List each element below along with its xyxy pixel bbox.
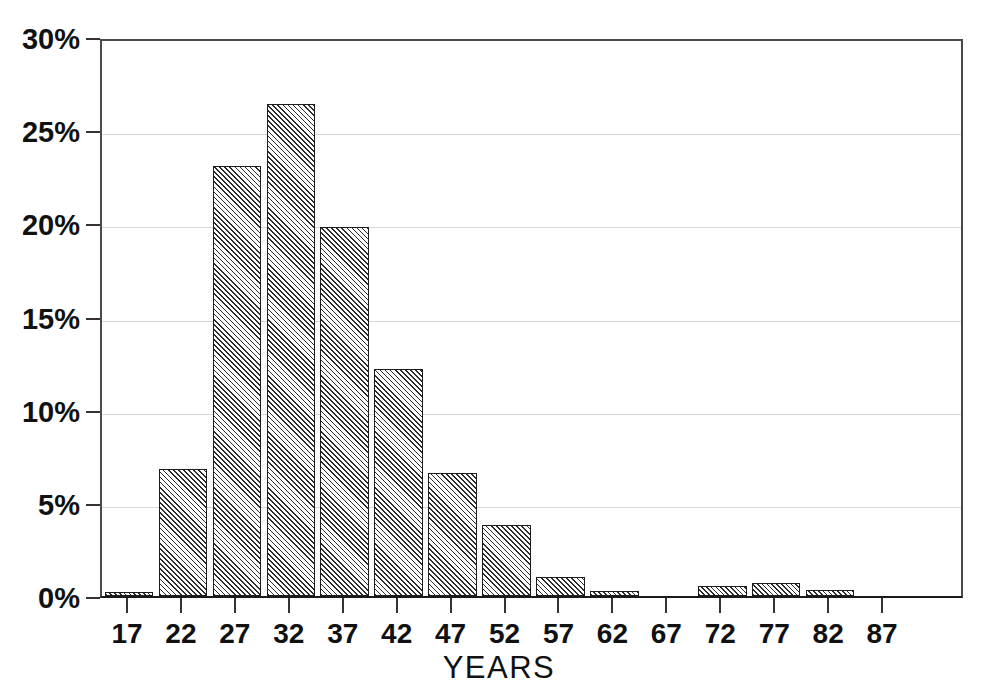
- x-tick-mark-62: [611, 598, 613, 613]
- x-tick-label: 67: [636, 618, 696, 650]
- x-tick-mark-37: [342, 598, 344, 613]
- y-tick-mark-20%: [86, 224, 100, 226]
- x-tick-label: 37: [313, 618, 373, 650]
- y-tick-label: 20%: [2, 209, 80, 242]
- bar-17: [105, 592, 154, 596]
- x-tick-label: 77: [744, 618, 804, 650]
- x-tick-label: 27: [205, 618, 265, 650]
- bar-22: [159, 469, 208, 596]
- y-tick-mark-0%: [86, 597, 100, 599]
- x-tick-mark-17: [126, 598, 128, 613]
- x-tick-label: 52: [475, 618, 535, 650]
- bar-77: [752, 583, 801, 596]
- bar-82: [806, 590, 855, 596]
- x-tick-label: 72: [690, 618, 750, 650]
- y-tick-label: 15%: [2, 303, 80, 336]
- y-tick-mark-30%: [86, 38, 100, 40]
- x-tick-mark-82: [827, 598, 829, 613]
- x-tick-mark-67: [665, 598, 667, 613]
- x-tick-mark-52: [504, 598, 506, 613]
- x-tick-label: 17: [97, 618, 157, 650]
- bar-57: [536, 577, 585, 596]
- bar-62: [590, 591, 639, 596]
- y-tick-mark-5%: [86, 504, 100, 506]
- x-tick-mark-47: [450, 598, 452, 613]
- bar-37: [320, 227, 369, 596]
- x-tick-mark-87: [881, 598, 883, 613]
- x-tick-label: 57: [528, 618, 588, 650]
- bar-52: [482, 525, 531, 596]
- x-tick-label: 42: [367, 618, 427, 650]
- y-tick-label: 10%: [2, 396, 80, 429]
- histogram-figure: 0%5%10%15%20%25%30% 17222732374247525762…: [0, 0, 998, 694]
- plot-area: [100, 39, 963, 598]
- bar-72: [698, 586, 747, 596]
- x-tick-label: 82: [798, 618, 858, 650]
- bar-27: [213, 166, 262, 596]
- x-tick-mark-27: [234, 598, 236, 613]
- x-tick-label: 87: [852, 618, 912, 650]
- x-tick-mark-57: [557, 598, 559, 613]
- y-tick-label: 25%: [2, 116, 80, 149]
- x-tick-mark-22: [180, 598, 182, 613]
- y-tick-mark-25%: [86, 131, 100, 133]
- bar-42: [374, 369, 423, 596]
- y-tick-label: 30%: [2, 23, 80, 56]
- x-tick-label: 32: [259, 618, 319, 650]
- x-tick-label: 62: [582, 618, 642, 650]
- x-tick-mark-77: [773, 598, 775, 613]
- x-tick-label: 22: [151, 618, 211, 650]
- y-tick-mark-10%: [86, 411, 100, 413]
- x-tick-mark-32: [288, 598, 290, 613]
- y-tick-mark-15%: [86, 318, 100, 320]
- gridline-25%: [102, 134, 961, 135]
- x-tick-mark-72: [719, 598, 721, 613]
- x-axis-title: YEARS: [0, 650, 998, 686]
- y-tick-label: 5%: [2, 489, 80, 522]
- x-tick-mark-42: [396, 598, 398, 613]
- bar-32: [267, 104, 316, 596]
- x-tick-label: 47: [421, 618, 481, 650]
- bar-47: [428, 473, 477, 596]
- y-tick-label: 0%: [2, 582, 80, 615]
